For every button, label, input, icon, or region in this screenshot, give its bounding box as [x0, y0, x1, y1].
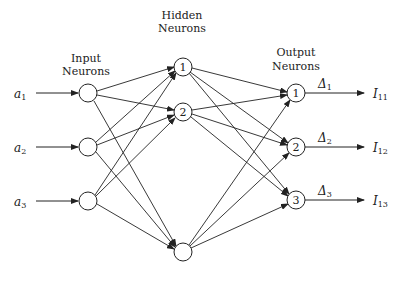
delta-label-3: Δ3: [317, 184, 332, 199]
neural-network-diagram: Input Neurons Hidden Neurons Output Neur…: [0, 0, 402, 282]
output-layer-title-line1: Output: [276, 46, 316, 59]
hidden-layer-title-line2: Neurons: [158, 22, 206, 35]
hidden-layer-title-line1: Hidden: [162, 9, 203, 22]
output-label-i11: I11: [372, 87, 388, 102]
input-neuron-1: [79, 84, 97, 102]
output-neuron-1-label: 1: [293, 87, 300, 100]
hidden-neuron-2-label: 2: [180, 106, 187, 119]
input-label-a2: a2: [14, 141, 26, 156]
hidden-neuron-3: [174, 243, 192, 261]
delta-label-2: Δ2: [317, 131, 332, 146]
output-label-i13: I13: [372, 194, 388, 209]
delta-label-1: Δ1: [317, 77, 332, 92]
output-neuron-3-label: 3: [293, 194, 300, 207]
input-layer-title-line1: Input: [71, 52, 102, 65]
output-neuron-2-label: 2: [293, 141, 300, 154]
input-neuron-3: [79, 192, 97, 210]
output-label-i12: I12: [372, 141, 388, 156]
input-label-a3: a3: [14, 195, 26, 210]
hidden-neuron-1-label: 1: [180, 61, 187, 74]
input-hidden-connections: [94, 67, 176, 249]
hidden-output-connections: [189, 68, 290, 248]
output-layer-title-line2: Neurons: [272, 60, 320, 73]
input-layer-title-line2: Neurons: [62, 65, 110, 78]
input-neuron-2: [79, 138, 97, 156]
input-label-a1: a1: [14, 87, 26, 102]
